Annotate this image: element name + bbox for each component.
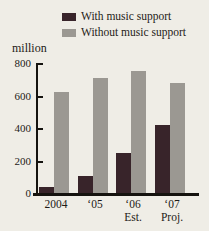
- y-tick-mark: [38, 63, 43, 65]
- legend-item: Without music support: [62, 27, 186, 38]
- y-axis-tick-labels: 8006004002000: [0, 63, 31, 196]
- bar: [170, 83, 185, 194]
- legend-swatch-icon: [62, 13, 76, 21]
- y-tick-label: 0: [0, 187, 31, 199]
- y-tick-mark: [38, 128, 43, 130]
- x-axis-labels: 2004‘05‘06Est.‘07Proj.: [36, 198, 196, 226]
- legend-item: With music support: [62, 11, 186, 22]
- bar: [93, 78, 108, 193]
- y-tick-label: 400: [0, 122, 31, 134]
- bar: [54, 92, 69, 193]
- y-tick-label: 600: [0, 90, 31, 102]
- y-tick-mark: [38, 161, 43, 163]
- bar: [131, 71, 146, 193]
- plot-area: [36, 63, 196, 196]
- chart-legend: With music supportWithout music support: [62, 11, 186, 38]
- legend-label: Without music support: [81, 27, 186, 38]
- y-tick-mark: [38, 96, 43, 98]
- bar: [155, 125, 170, 193]
- bar-chart-figure: With music supportWithout music support …: [0, 0, 209, 231]
- legend-label: With music support: [81, 11, 171, 22]
- y-tick-label: 800: [0, 57, 31, 69]
- x-axis-line: [33, 193, 199, 196]
- y-axis-title: million: [12, 41, 47, 56]
- bar: [78, 176, 93, 193]
- y-tick-label: 200: [0, 155, 31, 167]
- x-category-year: ‘07: [147, 198, 197, 211]
- bar: [116, 153, 131, 193]
- legend-swatch-icon: [62, 29, 76, 37]
- x-category-sublabel: Proj.: [147, 211, 197, 224]
- x-category-label: ‘07Proj.: [147, 198, 197, 224]
- bar: [39, 187, 54, 194]
